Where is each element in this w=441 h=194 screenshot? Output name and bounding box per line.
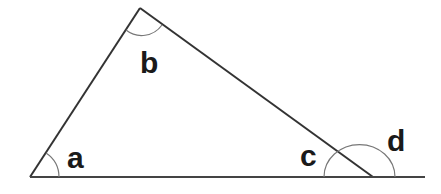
label-c: c [300, 139, 317, 172]
triangle-diagram: a b c d [0, 0, 441, 194]
angle-b-arc [126, 25, 162, 35]
angle-a-arc [46, 153, 59, 177]
label-b: b [140, 46, 158, 79]
label-d: d [387, 124, 405, 157]
label-a: a [67, 141, 84, 174]
side-ab [30, 8, 140, 177]
